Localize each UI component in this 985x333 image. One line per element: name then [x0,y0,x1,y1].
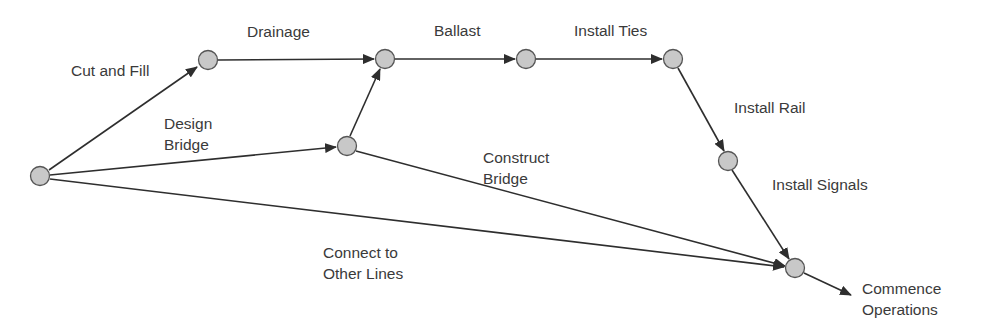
label-drainage: Drainage [247,21,310,42]
node-start [31,167,50,186]
edge-install-rail [678,68,724,151]
label-connect-lines: Connect to Other Lines [323,242,403,284]
edge-dummy [350,69,380,136]
node-6 [719,152,738,171]
label-ballast: Ballast [434,20,481,41]
node-1 [199,51,218,70]
label-install-signals: Install Signals [772,174,868,195]
node-2 [376,50,395,69]
label-cut-and-fill: Cut and Fill [71,60,149,81]
edge-construct-bridge [356,151,785,266]
label-install-ties: Install Ties [574,20,647,41]
node-4 [517,50,536,69]
label-construct-bridge: Construct Bridge [483,147,549,189]
label-design-bridge: Design Bridge [164,113,212,155]
edge-commence-operations [804,273,851,295]
node-end [786,259,805,278]
label-install-rail: Install Rail [734,97,806,118]
edge-connect-lines [50,179,784,267]
node-3 [338,137,357,156]
node-5 [664,50,683,69]
label-commence-operations: Commence Operations [862,278,941,320]
edge-drainage [218,59,374,60]
